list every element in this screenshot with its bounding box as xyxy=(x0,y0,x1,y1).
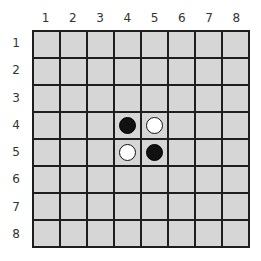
board-cell-r7-c7[interactable] xyxy=(196,194,221,219)
column-label: 4 xyxy=(114,10,141,26)
board-cell-r1-c3[interactable] xyxy=(88,32,113,57)
row-label: 5 xyxy=(8,139,24,166)
board-cell-r4-c2[interactable] xyxy=(61,113,86,138)
board-cell-r1-c2[interactable] xyxy=(61,32,86,57)
row-label: 1 xyxy=(8,30,24,57)
board-cell-r3-c8[interactable] xyxy=(223,86,248,111)
board-cell-r1-c8[interactable] xyxy=(223,32,248,57)
row-label: 3 xyxy=(8,85,24,112)
row-label: 8 xyxy=(8,221,24,248)
board-cell-r7-c3[interactable] xyxy=(88,194,113,219)
board-cell-r5-c8[interactable] xyxy=(223,140,248,165)
board-cell-r3-c1[interactable] xyxy=(34,86,59,111)
board-cell-r8-c2[interactable] xyxy=(61,221,86,246)
othello-board xyxy=(32,30,250,248)
board-cell-r5-c5[interactable] xyxy=(142,140,167,165)
column-label: 6 xyxy=(168,10,195,26)
board-cell-r3-c4[interactable] xyxy=(115,86,140,111)
board-cell-r6-c3[interactable] xyxy=(88,167,113,192)
board-cell-r6-c8[interactable] xyxy=(223,167,248,192)
column-label: 5 xyxy=(141,10,168,26)
board-cell-r4-c3[interactable] xyxy=(88,113,113,138)
board-cell-r3-c6[interactable] xyxy=(169,86,194,111)
board-cell-r4-c5[interactable] xyxy=(142,113,167,138)
row-label: 4 xyxy=(8,112,24,139)
column-label: 8 xyxy=(223,10,250,26)
board-cell-r1-c7[interactable] xyxy=(196,32,221,57)
board-cell-r1-c1[interactable] xyxy=(34,32,59,57)
board-cell-r8-c4[interactable] xyxy=(115,221,140,246)
white-piece-icon xyxy=(119,144,136,161)
board-cell-r4-c6[interactable] xyxy=(169,113,194,138)
board-cell-r8-c1[interactable] xyxy=(34,221,59,246)
column-label: 3 xyxy=(87,10,114,26)
board-cell-r6-c7[interactable] xyxy=(196,167,221,192)
board-cell-r7-c8[interactable] xyxy=(223,194,248,219)
board-cell-r7-c1[interactable] xyxy=(34,194,59,219)
board-cell-r5-c1[interactable] xyxy=(34,140,59,165)
board-cell-r6-c4[interactable] xyxy=(115,167,140,192)
black-piece-icon xyxy=(146,144,163,161)
board-cell-r7-c2[interactable] xyxy=(61,194,86,219)
board-cell-r3-c2[interactable] xyxy=(61,86,86,111)
board-cell-r2-c3[interactable] xyxy=(88,59,113,84)
board-cell-r6-c5[interactable] xyxy=(142,167,167,192)
board-cell-r8-c5[interactable] xyxy=(142,221,167,246)
board-cell-r1-c4[interactable] xyxy=(115,32,140,57)
board-cell-r5-c3[interactable] xyxy=(88,140,113,165)
column-label: 7 xyxy=(196,10,223,26)
board-cell-r2-c5[interactable] xyxy=(142,59,167,84)
board-cell-r4-c7[interactable] xyxy=(196,113,221,138)
board-cell-r7-c4[interactable] xyxy=(115,194,140,219)
board-cell-r6-c1[interactable] xyxy=(34,167,59,192)
column-labels: 1 2 3 4 5 6 7 8 xyxy=(32,10,250,26)
row-label: 7 xyxy=(8,194,24,221)
white-piece-icon xyxy=(146,117,163,134)
row-label: 2 xyxy=(8,57,24,84)
board-cell-r2-c6[interactable] xyxy=(169,59,194,84)
board-cell-r4-c1[interactable] xyxy=(34,113,59,138)
board-cell-r5-c2[interactable] xyxy=(61,140,86,165)
board-cell-r5-c7[interactable] xyxy=(196,140,221,165)
board-cell-r3-c7[interactable] xyxy=(196,86,221,111)
board-cell-r8-c3[interactable] xyxy=(88,221,113,246)
board-cell-r8-c8[interactable] xyxy=(223,221,248,246)
board-cell-r2-c7[interactable] xyxy=(196,59,221,84)
board-cell-r6-c2[interactable] xyxy=(61,167,86,192)
board-cell-r2-c8[interactable] xyxy=(223,59,248,84)
board-cell-r2-c2[interactable] xyxy=(61,59,86,84)
row-label: 6 xyxy=(8,166,24,193)
board-cell-r2-c4[interactable] xyxy=(115,59,140,84)
board-cell-r7-c6[interactable] xyxy=(169,194,194,219)
board-cell-r6-c6[interactable] xyxy=(169,167,194,192)
board-cell-r4-c8[interactable] xyxy=(223,113,248,138)
board-cell-r3-c3[interactable] xyxy=(88,86,113,111)
board-cell-r7-c5[interactable] xyxy=(142,194,167,219)
board-cell-r8-c6[interactable] xyxy=(169,221,194,246)
board-cell-r5-c6[interactable] xyxy=(169,140,194,165)
board-cell-r5-c4[interactable] xyxy=(115,140,140,165)
black-piece-icon xyxy=(119,117,136,134)
column-label: 2 xyxy=(59,10,86,26)
board-cell-r8-c7[interactable] xyxy=(196,221,221,246)
board-cell-r2-c1[interactable] xyxy=(34,59,59,84)
column-label: 1 xyxy=(32,10,59,26)
row-labels: 1 2 3 4 5 6 7 8 xyxy=(8,30,24,248)
board-cell-r1-c6[interactable] xyxy=(169,32,194,57)
board-cell-r3-c5[interactable] xyxy=(142,86,167,111)
board-cell-r1-c5[interactable] xyxy=(142,32,167,57)
board-cell-r4-c4[interactable] xyxy=(115,113,140,138)
